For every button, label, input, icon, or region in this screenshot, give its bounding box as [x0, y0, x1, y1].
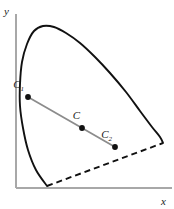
point-label-c-text: C — [73, 109, 81, 121]
diagram-canvas: C1 C C2 y x — [0, 0, 174, 209]
point-label-c: C — [73, 109, 81, 121]
x-axis-label: x — [160, 195, 166, 207]
point-marker-c1 — [25, 94, 31, 100]
purple-line-dashed — [47, 143, 163, 186]
point-label-c1: C1 — [13, 78, 24, 93]
point-marker-c2 — [112, 144, 118, 150]
point-label-c1-subscript: 1 — [21, 85, 25, 93]
point-label-c2-subscript: 2 — [109, 135, 113, 143]
spectral-locus-curve — [20, 26, 163, 186]
y-axis-label: y — [3, 5, 9, 17]
point-marker-c — [79, 125, 85, 131]
chromaticity-diagram-figure: C1 C C2 y x — [0, 0, 174, 209]
